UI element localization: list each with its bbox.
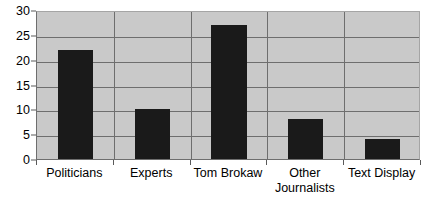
x-tick-mark	[190, 160, 191, 165]
bar	[135, 109, 170, 159]
bar	[58, 50, 93, 159]
y-axis: 30 25 20 15 10 5 0	[0, 0, 30, 210]
y-tick-label: 5	[0, 129, 30, 142]
y-tick-label: 25	[0, 30, 30, 43]
x-tick-mark	[420, 160, 421, 165]
x-tick-mark	[343, 160, 344, 165]
x-axis-label-line: Experts	[113, 166, 190, 181]
x-axis-label-line: Journalists	[266, 181, 343, 196]
x-axis-label-line: Politicians	[36, 166, 113, 181]
x-axis-label-line: Text Display	[343, 166, 420, 181]
x-tick-mark	[266, 160, 267, 165]
y-tick-label: 0	[0, 154, 30, 167]
x-axis-label: Experts	[113, 166, 190, 181]
y-tick-label: 15	[0, 79, 30, 92]
y-tick-label: 20	[0, 54, 30, 67]
y-tick-label: 10	[0, 104, 30, 117]
x-axis-label: Tom Brokaw	[190, 166, 267, 181]
gridline-vertical	[191, 12, 192, 159]
gridline-vertical	[114, 12, 115, 159]
bar	[211, 25, 246, 159]
x-axis-label: Text Display	[343, 166, 420, 181]
x-tick-mark	[36, 160, 37, 165]
x-tick-mark	[113, 160, 114, 165]
x-axis-label: Politicians	[36, 166, 113, 181]
gridline-vertical	[267, 12, 268, 159]
plot-area	[36, 11, 420, 160]
bar	[365, 139, 400, 159]
x-axis: PoliticiansExpertsTom BrokawOtherJournal…	[36, 166, 420, 210]
bar-chart: 30 25 20 15 10 5 0 PoliticiansExpertsTom…	[0, 0, 430, 210]
gridline-vertical	[344, 12, 345, 159]
x-axis-label-line: Other	[266, 166, 343, 181]
bar	[288, 119, 323, 159]
x-axis-label: OtherJournalists	[266, 166, 343, 196]
y-tick-label: 30	[0, 5, 30, 18]
x-axis-label-line: Tom Brokaw	[190, 166, 267, 181]
